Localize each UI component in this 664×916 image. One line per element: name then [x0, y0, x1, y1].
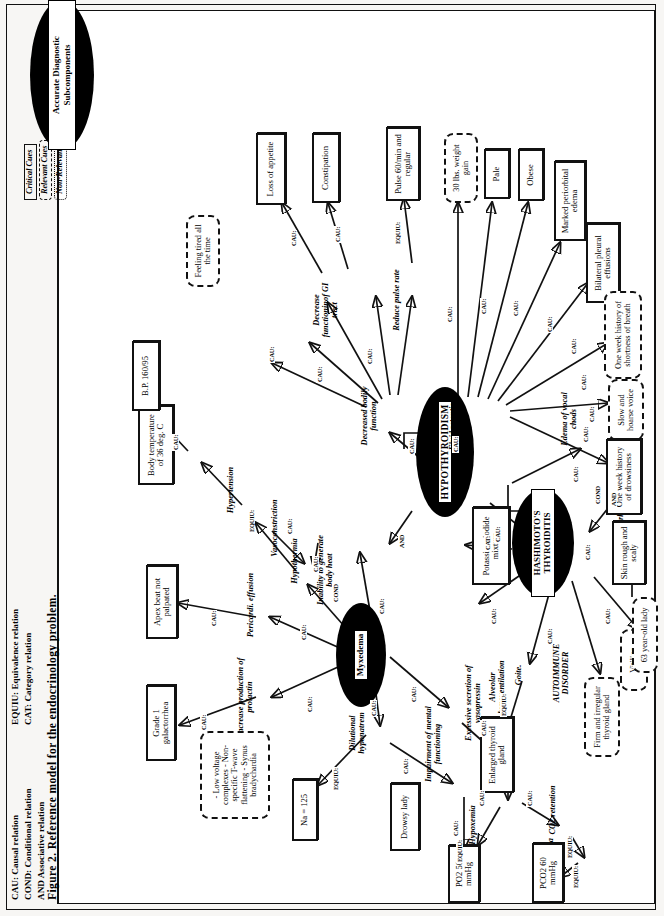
- relation-legend: CAU: Causal relation COND: Conditional r…: [10, 20, 56, 900]
- rel-cau-decreased-gi: CAU:: [316, 366, 323, 383]
- node-hashimotos-thyroiditis-label: HASHIMOTO'S THYROIDITIS: [531, 489, 555, 597]
- interm-increase-production-of-prolactin: Increase production of prolactin: [236, 651, 254, 743]
- node-myxedema[interactable]: Myxedema: [336, 603, 386, 707]
- cue-feeling-tired-all-the-time[interactable]: Feeling tired all the time: [186, 215, 220, 287]
- rel-cau-hypertension-bp: CAU:: [172, 434, 179, 451]
- rel-cau-decreased-tired: CAU:: [268, 346, 275, 363]
- cue-constipation[interactable]: Constipation: [312, 133, 340, 203]
- rel-and-hypo-potassium: AND: [398, 534, 405, 549]
- rel-cat-hashimoto-autoimmune: CAT:: [484, 535, 491, 551]
- rel-cau-hashimoto-firm: CAU:: [546, 628, 553, 645]
- figure-page: Figure 2. Reference model for the endocr…: [0, 0, 664, 916]
- cue-pale[interactable]: Pale: [484, 149, 510, 199]
- interm-dilutional-hyponatremia: Dilutional hyponatrem: [348, 695, 366, 771]
- rel-cau-fluid-weight: CAU:: [446, 306, 453, 323]
- interm-goite: Goite.: [514, 655, 523, 695]
- node-hypothyroidism[interactable]: HYPOTHYROIDISM: [416, 387, 474, 517]
- cue-63-year-old-lady[interactable]: 63 year-old lady: [632, 597, 658, 673]
- rel-cau-impairment-drowsy: CAU:: [452, 820, 459, 837]
- rel-equiv-goite-enlarged: EQUIU:: [500, 693, 507, 717]
- rel-equiv-dilutional-na: EQUIU:: [332, 767, 339, 791]
- interm-vasoconstriction: Vasoconstriction: [270, 489, 279, 567]
- cue-body-temperature[interactable]: Body temperature of 36 deg. C: [138, 405, 174, 485]
- rel-cau-fluid-sob: CAU:: [580, 374, 587, 391]
- rel-equiv-hypoxemia-po2: EQUIU:: [456, 839, 463, 863]
- rel-cau-hypo-fluid: CAU:: [452, 436, 459, 453]
- rel-cau-hashimoto-vitiligo: CAU:: [604, 608, 611, 625]
- cue-pulse-60-min[interactable]: Pulse 60/min and regular: [386, 127, 420, 201]
- rel-cau-pericard-apex: CAU:: [210, 610, 217, 627]
- rel-cau-prolactin-galactorrhea: CAU:: [200, 714, 207, 731]
- rel-cau-vasoconstriction-hypertension: CAU:: [286, 518, 293, 535]
- cue-bp-160-95[interactable]: B.P. 160/95: [132, 341, 160, 411]
- rel-cau-alveolar-respfailure: CAU:: [480, 720, 487, 737]
- interm-decreased-bodily-function: Decreased bodily function: [360, 381, 378, 451]
- rel-and-63: AND: [610, 492, 617, 507]
- cue-slow-and-hoarse-voice[interactable]: Slow and hoarse voice: [608, 379, 644, 441]
- cue-po2-50[interactable]: PO2 50 mmHg: [448, 845, 480, 903]
- concept-map: Myxedema HYPOTHYROIDISM HASHIMOTO'S THYR…: [60, 13, 652, 903]
- legend-cat: CAT: Category relation: [23, 633, 33, 725]
- rel-equiv-hypercabia-pco2: EQUIU:: [572, 865, 579, 889]
- rel-cau-hyperkeratosis-skin: CAU:: [584, 544, 591, 561]
- interm-hypothermia: Hypothermia: [290, 527, 299, 595]
- rel-cau-decreased-pulse: CAU:: [366, 348, 373, 365]
- cue-ecg-findings[interactable]: - Low voltage complexes - Non-specific T…: [200, 731, 270, 819]
- interm-hypertension: Hypertension: [226, 455, 235, 525]
- rel-cau-dilutional-impairment: CAU:: [402, 758, 409, 775]
- rel-cau-myx-dilutional: CAU:: [370, 700, 377, 717]
- rel-cau-gi-constipation: CAU:: [334, 226, 341, 243]
- cue-potassium-iodide-mixture[interactable]: Potassium iodide mixture: [472, 507, 510, 585]
- rel-cau-fluid-drowsiness: CAU:: [572, 466, 579, 483]
- legend-cond: COND: Conditional relation: [23, 788, 33, 900]
- rel-cau-hashimoto-goite: CAU:: [490, 608, 497, 625]
- cue-skin-rough-and-scaly[interactable]: Skin rough and scaly: [612, 521, 646, 585]
- rel-cau-fluid-periorbital: CAU:: [546, 316, 553, 333]
- node-hashimotos-thyroiditis[interactable]: HASHIMOTO'S THYROIDITIS: [512, 489, 574, 597]
- rel-cau-gi-appetite: CAU:: [290, 230, 297, 247]
- rel-equiv-hypothermia-temp: EQUIU:: [248, 509, 255, 533]
- legend-and: AND Associative relation: [36, 802, 46, 900]
- cue-grade-1-galactorrhea[interactable]: Grade 1 galactorrhea: [146, 685, 176, 761]
- rel-cau-inability-vaso: CAU:: [312, 556, 319, 573]
- rel-cau-myx-vasopressin: CAU:: [410, 686, 417, 703]
- cue-weight-gain-30lbs[interactable]: 30 lbs. weight gain: [444, 133, 478, 203]
- rel-cau-hypo-decreased: CAU:: [408, 438, 415, 455]
- rel-cau-resp-hypoxemia: CAU:: [478, 790, 485, 807]
- node-myxedema-label: Myxedema: [354, 630, 368, 681]
- rel-cau-fluid-obese: CAU:: [512, 300, 519, 317]
- interm-pericardial-effusion: Pericardi. effusion: [246, 569, 255, 641]
- cue-drowsy-lady[interactable]: Drowsy lady: [390, 783, 420, 851]
- rel-equiv-pulse-60: EQUIU:: [394, 221, 401, 245]
- cue-loss-of-appetite[interactable]: Loss of appetite: [256, 133, 286, 205]
- rel-cau-hashimoto-hypo: CAU:: [494, 526, 501, 543]
- cue-firm-and-irregular-thyroid-gland[interactable]: Firm and irregular thyroid gland: [584, 677, 620, 757]
- rel-cau-resp-co2: CAU:: [526, 790, 533, 807]
- rel-equiv-co2-hypercabia: EQUIU:: [566, 835, 573, 859]
- interm-reduce-pulse-rate: Reduce pulse rate: [392, 269, 401, 331]
- rel-cau-edema-voice: CAU:: [582, 426, 589, 443]
- interm-autoimmune-disorder: AUTOIMMUNE DISORDER: [552, 631, 570, 715]
- interm-decrease-functionin-of-gi-tract: Decrease functioninof GI tract: [312, 275, 340, 345]
- rel-cau-fluid-pale: CAU:: [480, 298, 487, 315]
- rel-cau-myx-prolactin: CAU:: [306, 696, 313, 713]
- rel-cau-fluid-pleural: CAU:: [570, 338, 577, 355]
- rel-cau-fluid-edema-vocal: CAU:: [588, 406, 595, 423]
- cue-apex-beat-not-palpated[interactable]: Apex beat not palpated: [146, 565, 178, 639]
- rel-cau-myx-hypothermia: COND: [332, 583, 339, 603]
- cue-marked-periorbital-edema[interactable]: Marked periorbital edema: [554, 161, 586, 241]
- rel-cau-myx-alveolar: CAU:: [378, 598, 385, 615]
- rel-cond-63-hashimoto: COND: [594, 485, 601, 505]
- cue-na-125[interactable]: Na = 125: [292, 779, 318, 841]
- legend-equiv: EQUIU: Equivalence relation: [10, 609, 20, 725]
- cue-pco2-60[interactable]: PCO2 60 mmHg: [532, 843, 564, 903]
- interm-edema-of-vocal-chods: Edema of vocal chods: [560, 387, 578, 451]
- rel-cau-myx-pericard: CAU:: [300, 624, 307, 641]
- legend-cau: CAU: Causal relation: [10, 815, 20, 900]
- cue-obese[interactable]: Obese: [518, 149, 544, 201]
- cue-one-week-history-shortness-of-breath[interactable]: One week history of shortness of breath: [604, 291, 642, 379]
- interm-impairment-of-mental-functioning: Impairment of mental functioning: [424, 703, 442, 785]
